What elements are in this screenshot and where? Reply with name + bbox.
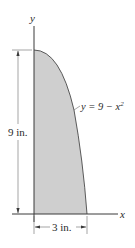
- height-arrow-down-icon: [16, 208, 19, 214]
- height-dimension-label: 9 in.: [8, 126, 28, 138]
- equation-base: y = 9 − x: [80, 101, 121, 112]
- width-arrow-right-icon: [81, 225, 87, 228]
- y-axis-label: y: [29, 12, 35, 24]
- shaded-region: [34, 50, 87, 214]
- width-arrow-left-icon: [35, 225, 41, 228]
- equation-leader-line: [74, 106, 80, 110]
- equation-exponent: 2: [120, 100, 124, 108]
- area-under-parabola-diagram: y x 9 in. 3 in. y = 9 − x2: [0, 0, 135, 248]
- height-arrow-up-icon: [16, 51, 19, 57]
- curve-equation-label: y = 9 − x2: [80, 100, 124, 112]
- x-axis-label: x: [119, 208, 125, 220]
- width-dimension-label: 3 in.: [52, 221, 72, 233]
